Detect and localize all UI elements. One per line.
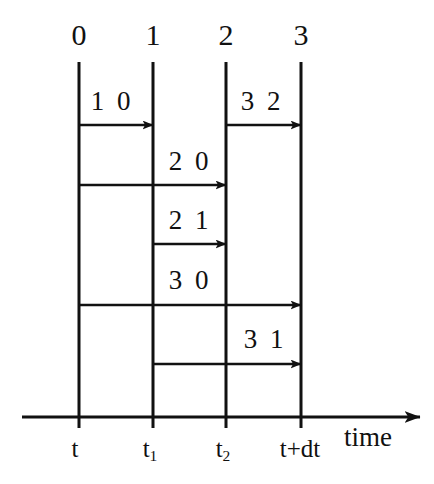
tick-base: t <box>143 435 150 462</box>
message-label-21: 2 1 <box>169 207 212 234</box>
time-tick-label-t2: t2 <box>216 436 231 464</box>
message-label-30: 3 0 <box>169 267 212 294</box>
time-tick-label-t1: t1 <box>143 436 158 464</box>
time-tick-label-tplusdt: t+dt <box>280 436 321 461</box>
message-label-10: 1 0 <box>91 88 134 115</box>
process-label-3: 3 <box>294 20 309 50</box>
message-label-32: 3 2 <box>241 88 284 115</box>
time-axis-label: time <box>344 424 392 451</box>
process-label-0: 0 <box>72 20 87 50</box>
time-tick-label-t: t <box>72 436 79 461</box>
tick-base: t <box>72 435 79 462</box>
tick-base: t+dt <box>280 435 321 462</box>
tick-base: t <box>216 435 223 462</box>
diagram-canvas: 0123 1 03 22 02 13 03 1 tt1t2t+dt time <box>0 0 434 484</box>
process-label-1: 1 <box>146 20 161 50</box>
message-label-31: 3 1 <box>244 326 287 353</box>
diagram-svg <box>0 0 434 484</box>
process-label-2: 2 <box>219 20 234 50</box>
tick-subscript: 2 <box>223 447 231 464</box>
tick-subscript: 1 <box>150 447 158 464</box>
message-label-20: 2 0 <box>169 148 212 175</box>
